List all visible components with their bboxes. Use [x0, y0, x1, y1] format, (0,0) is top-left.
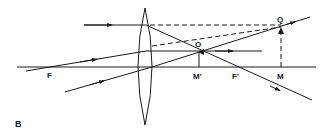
- label-image-base: M: [277, 72, 284, 81]
- label-object-tip: O: [195, 40, 201, 49]
- ray-through-focus: [26, 27, 281, 71]
- label-image-tip: Q: [277, 15, 283, 24]
- label-focal-left: F: [47, 71, 52, 80]
- lens-ray-diagram: F M' F' M O Q B: [0, 0, 332, 130]
- image-arrowhead-icon: [278, 27, 284, 34]
- ray-through-centre: [65, 17, 310, 92]
- panel-label: B: [15, 119, 22, 129]
- ray-parallel: [84, 25, 312, 100]
- label-focal-right: F': [232, 72, 239, 81]
- label-object-base: M': [193, 72, 202, 81]
